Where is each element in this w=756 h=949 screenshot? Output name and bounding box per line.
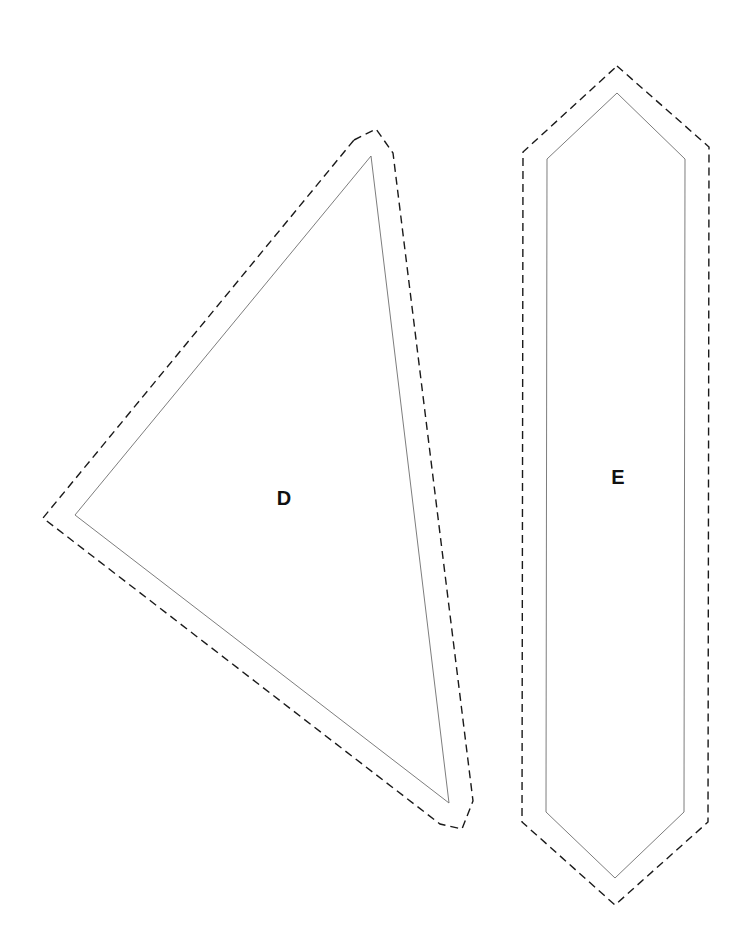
piece-e-label: E	[611, 467, 624, 487]
piece-d-sew-line	[75, 156, 449, 803]
piece-d-label: D	[277, 488, 291, 508]
piece-d-cut-line	[43, 129, 473, 829]
pattern-piece-d	[43, 129, 473, 829]
pattern-canvas	[0, 0, 756, 949]
